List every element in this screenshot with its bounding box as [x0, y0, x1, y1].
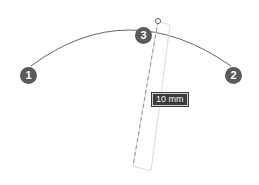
- point-badge-1: 1: [20, 67, 37, 84]
- point-badge-3: 3: [135, 27, 152, 44]
- dimension-input-label[interactable]: 10 mm: [152, 93, 188, 106]
- arc-curve[interactable]: [31, 30, 231, 66]
- point-badge-2: 2: [225, 67, 242, 84]
- arc-diagram-canvas: [0, 0, 259, 185]
- arc-handle-point[interactable]: [155, 18, 160, 23]
